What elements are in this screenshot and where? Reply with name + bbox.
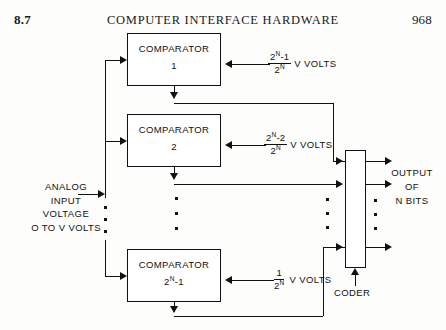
analog-input-lead: [78, 194, 100, 195]
ref-unit-3: V VOLTS: [289, 274, 331, 285]
ref-denominator-1: 2N: [272, 64, 286, 75]
input-bus-dot-1: [104, 206, 107, 209]
analog-input-arrowhead: [98, 190, 105, 198]
ref-voltage-2: 2N-2 2N V VOLTS: [264, 133, 332, 156]
out2-run-right: [174, 184, 342, 185]
out3-coder-arrowhead: [336, 243, 343, 251]
page-number: 968: [412, 12, 432, 28]
ref-voltage-1: 2N-1 2N V VOLTS: [268, 52, 336, 75]
comparator-2-box: COMPARATOR 2: [127, 114, 221, 167]
comparator-3-name: COMPARATOR: [128, 259, 220, 270]
out3-run-up: [323, 247, 324, 316]
comparator-ellipsis-dot-3: [175, 227, 178, 230]
coder-label: CODER: [334, 287, 370, 298]
coder-input-ellipsis-dot-1: [326, 198, 329, 201]
out2-coder-arrowhead: [336, 180, 343, 188]
out1-drop-arrowhead: [170, 92, 178, 99]
coder-input-ellipsis-dot-2: [326, 212, 329, 215]
comparator-1-box: COMPARATOR 1: [127, 33, 221, 86]
comparator-2-name: COMPARATOR: [128, 124, 220, 135]
out2-drop-arrowhead: [170, 173, 178, 180]
input-bus-dot-2: [104, 218, 107, 221]
ref-fraction-2: 2N-2 2N: [264, 133, 287, 156]
coder-output-ellipsis-dot-1: [374, 199, 377, 202]
ref-fraction-3: 1 2N: [272, 268, 286, 291]
output-label: OUTPUT OF N BITS: [383, 166, 441, 208]
comparator-1-name: COMPARATOR: [128, 43, 220, 54]
coder-output-ellipsis-dot-3: [374, 227, 377, 230]
page-title: COMPUTER INTERFACE HARDWARE: [0, 13, 446, 28]
input-bus-dot-3: [104, 230, 107, 233]
coder-callout-arrowhead: [351, 268, 359, 275]
input-stub-arrowhead-3: [120, 272, 127, 280]
ref-lead-3: [232, 280, 274, 281]
coder-output-arrowhead-1: [385, 157, 392, 165]
ref-fraction-1: 2N-1 2N: [268, 52, 291, 75]
input-stub-arrowhead-1: [120, 56, 127, 64]
ref-unit-2: V VOLTS: [290, 139, 332, 150]
ref-arrowhead-3: [225, 276, 232, 284]
coder-box: [345, 150, 366, 268]
coder-output-ellipsis-dot-2: [374, 213, 377, 216]
comparator-ellipsis-dot-1: [175, 197, 178, 200]
ref-unit-1: V VOLTS: [294, 58, 336, 69]
coder-output-arrowhead-3: [385, 243, 392, 251]
comparator-3-index: 2N-1: [128, 276, 220, 287]
ref-arrowhead-1: [225, 60, 232, 68]
comparator-1-index: 1: [128, 60, 220, 71]
out1-coder-arrowhead: [336, 157, 343, 165]
figure-page: 8.7 COMPUTER INTERFACE HARDWARE 968 ANAL…: [0, 0, 446, 330]
comparator-3-box: COMPARATOR 2N-1: [127, 249, 221, 302]
out3-drop-arrowhead: [170, 306, 178, 313]
comparator-ellipsis-dot-2: [175, 212, 178, 215]
input-bus-segment-upper-mid: [105, 194, 106, 198]
coder-input-ellipsis-dot-3: [326, 226, 329, 229]
ref-lead-2: [232, 145, 266, 146]
output-label-line-1: OUTPUT: [383, 166, 441, 180]
comparator-2-index: 2: [128, 141, 220, 152]
output-label-line-2: OF: [383, 180, 441, 194]
ref-arrowhead-2: [225, 141, 232, 149]
out1-run-right: [174, 103, 333, 104]
input-bus-segment-lower: [105, 240, 106, 276]
out1-run-down: [333, 103, 334, 161]
ref-lead-1: [232, 64, 270, 65]
coder-callout-lead: [355, 274, 356, 286]
input-stub-arrowhead-2: [120, 137, 127, 145]
output-label-line-3: N BITS: [383, 194, 441, 208]
ref-denominator-3: 2N: [272, 280, 286, 291]
out3-run-right: [174, 316, 323, 317]
input-bus-segment-top: [105, 60, 106, 194]
ref-denominator-2: 2N: [268, 145, 282, 156]
